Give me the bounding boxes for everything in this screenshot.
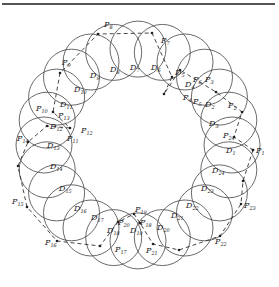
route-dot	[163, 93, 166, 96]
point-label-23: P23	[243, 201, 256, 211]
disk-label-8: D8	[109, 65, 120, 75]
disk-label-24: D24	[211, 166, 225, 176]
point-label-2: P2	[227, 101, 237, 111]
disk-label-21: D21	[170, 211, 184, 221]
disk-label-12: D12	[49, 122, 63, 132]
route-dot	[152, 243, 155, 246]
point-label-13: P13	[57, 111, 70, 121]
disk-label-3: D3	[208, 119, 219, 129]
disk-circle	[29, 69, 85, 125]
point-label-16: P16	[44, 238, 58, 248]
point-label-17: P17	[114, 245, 128, 255]
route-dot	[26, 206, 29, 209]
disk-label-15: D15	[58, 184, 72, 194]
disk-label-19: D19	[129, 226, 144, 236]
route-dot	[69, 127, 72, 130]
point-label-1: P1	[255, 146, 265, 156]
point-label-4: P4	[182, 93, 192, 103]
point-labels: P1P2P3P4P5P6P7P8P9P10P11P12P13P14P15P16P…	[11, 20, 265, 256]
route-dot	[240, 203, 243, 206]
point-label-18: P18	[139, 218, 152, 228]
route-dot	[59, 72, 62, 75]
disk-label-18: D18	[106, 226, 120, 236]
point-label-7: P7	[160, 36, 170, 46]
route-dot	[17, 165, 20, 168]
route-dot	[178, 249, 181, 252]
point-label-21: P21	[145, 246, 158, 256]
point-label-24: P24	[222, 131, 235, 141]
route-dot	[99, 245, 102, 248]
route-dot	[52, 111, 55, 114]
point-label-3: P3	[204, 75, 214, 85]
point-label-22: P22	[214, 237, 227, 247]
point-label-11: P11	[66, 134, 79, 144]
disk-circle	[191, 69, 247, 125]
disk-circle	[16, 117, 72, 173]
route-dot	[241, 111, 244, 114]
point-label-15: P15	[11, 197, 24, 207]
route-dot	[252, 149, 255, 152]
disk-label-5: D5	[174, 68, 185, 78]
disk-label-10: D10	[73, 85, 88, 95]
ring-diagram: D1D2D3D4D5D6D7D8D9D10D11D12D13D14D15D16D…	[0, 0, 279, 287]
point-label-8: P8	[103, 20, 113, 30]
point-label-10: P10	[35, 104, 49, 114]
route-dot	[46, 125, 49, 128]
route-dot	[171, 76, 174, 79]
point-label-12: P12	[80, 126, 93, 136]
route-dot	[151, 32, 154, 35]
route-dot	[242, 180, 245, 183]
disk-label-17: D17	[90, 213, 105, 223]
point-label-9: P9	[61, 58, 71, 68]
disk-label-13: D13	[46, 141, 60, 151]
route-dot	[215, 91, 218, 94]
route-dot	[97, 33, 100, 36]
disk-label-11: D11	[59, 100, 73, 110]
disk-label-20: D20	[156, 223, 171, 233]
disk-circle	[177, 185, 233, 241]
point-label-5: P5	[192, 97, 202, 107]
disk-label-6: D6	[150, 63, 161, 73]
point-label-19: P19	[134, 205, 148, 215]
point-label-14: P14	[16, 134, 29, 144]
disk-label-2: D2	[204, 100, 215, 110]
disk-label-16: D16	[73, 204, 88, 214]
disk-label-14: D14	[49, 162, 63, 172]
